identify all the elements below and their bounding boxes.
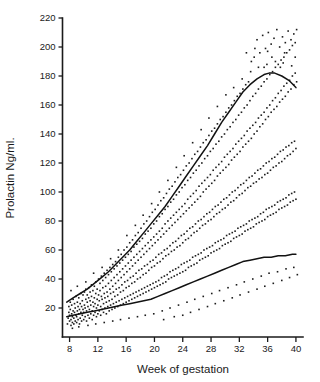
data-point <box>70 319 72 321</box>
data-point <box>229 151 231 153</box>
data-point <box>77 319 79 321</box>
data-point <box>218 140 220 142</box>
data-point <box>129 242 131 244</box>
data-point <box>233 200 235 202</box>
data-point <box>125 301 127 303</box>
data-point <box>248 291 250 293</box>
data-point <box>148 270 150 272</box>
data-point <box>70 290 72 292</box>
data-point <box>260 168 262 170</box>
data-point <box>221 136 223 138</box>
data-point <box>270 169 272 171</box>
data-point <box>172 242 174 244</box>
x-tick-label: 20 <box>149 343 160 354</box>
data-point <box>74 307 76 309</box>
data-point <box>292 200 294 202</box>
data-point <box>196 262 198 264</box>
data-point <box>189 259 191 261</box>
data-point <box>243 135 245 137</box>
data-point <box>127 254 129 256</box>
data-point <box>294 72 296 74</box>
data-point <box>206 248 208 250</box>
data-point <box>143 223 145 225</box>
data-point <box>213 251 215 253</box>
data-point <box>187 180 189 182</box>
data-point <box>251 175 253 177</box>
data-point <box>192 226 194 228</box>
data-point <box>210 174 212 176</box>
data-point <box>236 236 238 238</box>
data-point <box>90 304 92 306</box>
data-point <box>89 291 91 293</box>
data-point <box>181 235 183 237</box>
data-point <box>250 185 252 187</box>
y-tick-label: 60 <box>45 244 56 255</box>
data-point <box>237 187 239 189</box>
data-point <box>190 177 192 179</box>
data-point <box>169 227 171 229</box>
data-point <box>133 256 135 258</box>
data-point <box>243 225 245 227</box>
data-point <box>118 287 120 289</box>
data-point <box>165 255 167 257</box>
data-point <box>180 216 182 218</box>
data-point <box>265 119 267 121</box>
data-point <box>231 159 233 161</box>
data-point <box>255 93 257 95</box>
data-point <box>174 222 176 224</box>
x-axis-group: 81216202428323640 <box>63 337 304 354</box>
data-point <box>185 270 187 272</box>
data-point <box>265 48 267 50</box>
data-point <box>84 307 86 309</box>
data-point <box>194 154 196 156</box>
data-point <box>267 172 269 174</box>
data-point <box>140 256 142 258</box>
data-point <box>102 287 104 289</box>
data-point <box>142 293 144 295</box>
data-point <box>68 312 70 314</box>
x-tick-label: 28 <box>206 343 217 354</box>
data-point <box>277 64 279 66</box>
y-tick-label: 80 <box>45 215 56 226</box>
data-point <box>184 184 186 186</box>
x-tick-label: 16 <box>121 343 132 354</box>
data-point <box>71 304 73 306</box>
data-point <box>157 204 159 206</box>
data-point <box>262 123 264 125</box>
data-point <box>203 249 205 251</box>
data-point <box>280 90 282 92</box>
data-point <box>113 268 115 270</box>
data-point <box>230 241 232 243</box>
data-point <box>208 135 210 137</box>
data-point <box>130 259 132 261</box>
data-point <box>161 227 163 229</box>
data-point <box>186 301 188 303</box>
data-point <box>283 85 285 87</box>
data-point <box>200 252 202 254</box>
data-point <box>101 267 103 269</box>
data-point <box>280 67 282 69</box>
data-point <box>163 319 165 321</box>
data-point <box>198 309 200 311</box>
data-point <box>69 301 71 303</box>
data-point <box>208 185 210 187</box>
data-point <box>252 96 254 98</box>
data-point <box>287 155 289 157</box>
data-point <box>214 127 216 129</box>
data-point <box>251 219 253 221</box>
data-point <box>226 197 228 199</box>
data-point <box>239 294 241 296</box>
data-point <box>175 268 177 270</box>
data-point <box>106 291 108 293</box>
chart-canvas: 20406080100120140160180200220 8121620242… <box>0 0 320 382</box>
data-point <box>120 319 122 321</box>
data-point <box>89 300 91 302</box>
data-point <box>173 249 175 251</box>
data-point <box>116 265 118 267</box>
data-point <box>281 161 283 163</box>
data-point <box>230 201 232 203</box>
data-point <box>267 51 269 53</box>
data-point <box>137 259 139 261</box>
data-point <box>280 200 282 202</box>
data-point <box>198 220 200 222</box>
